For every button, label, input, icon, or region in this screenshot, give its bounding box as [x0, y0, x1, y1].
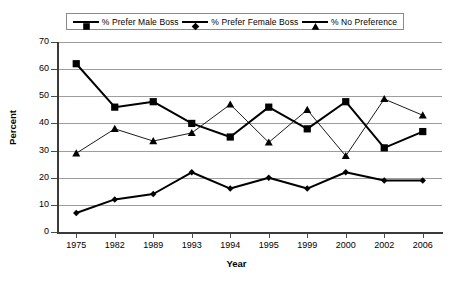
y-tick [51, 42, 57, 43]
data-point-marker [420, 177, 426, 183]
data-point-marker [188, 129, 196, 136]
x-tick [153, 233, 154, 238]
data-point-marker [343, 169, 349, 175]
data-point-marker [342, 98, 349, 105]
x-tick [192, 233, 193, 238]
data-point-marker [111, 125, 119, 132]
y-tick [51, 123, 57, 124]
data-point-marker [72, 149, 80, 156]
data-point-marker [73, 60, 80, 67]
series-line [76, 64, 423, 148]
y-tick [51, 96, 57, 97]
data-point-marker [112, 196, 118, 202]
series-layer [0, 0, 473, 283]
data-point-marker [303, 106, 311, 113]
x-tick [269, 233, 270, 238]
data-point-marker [381, 177, 387, 183]
x-tick [230, 233, 231, 238]
x-axis-title: Year [0, 258, 473, 269]
data-point-marker [304, 185, 310, 191]
line-chart: % Prefer Male Boss % Prefer Female Boss … [0, 0, 473, 283]
x-tick [423, 233, 424, 238]
series-line [76, 99, 423, 156]
data-point-marker [226, 100, 234, 107]
data-point-marker [265, 104, 272, 111]
y-tick [51, 232, 57, 233]
data-point-marker [419, 128, 426, 135]
data-point-marker [419, 111, 427, 118]
data-point-marker [304, 125, 311, 132]
data-point-marker [150, 98, 157, 105]
data-point-marker [227, 133, 234, 140]
data-point-marker [381, 144, 388, 151]
y-tick [51, 151, 57, 152]
y-axis-title: Percent [7, 78, 18, 178]
x-tick [346, 233, 347, 238]
data-point-marker [266, 175, 272, 181]
data-point-marker [380, 95, 388, 102]
x-tick [76, 233, 77, 238]
x-tick [115, 233, 116, 238]
data-point-marker [227, 185, 233, 191]
x-tick [384, 233, 385, 238]
series-line [76, 172, 423, 213]
y-tick [51, 205, 57, 206]
y-tick [51, 69, 57, 70]
data-point-marker [111, 104, 118, 111]
y-tick [51, 178, 57, 179]
data-point-marker [73, 210, 79, 216]
data-point-marker [188, 120, 195, 127]
x-tick [307, 233, 308, 238]
